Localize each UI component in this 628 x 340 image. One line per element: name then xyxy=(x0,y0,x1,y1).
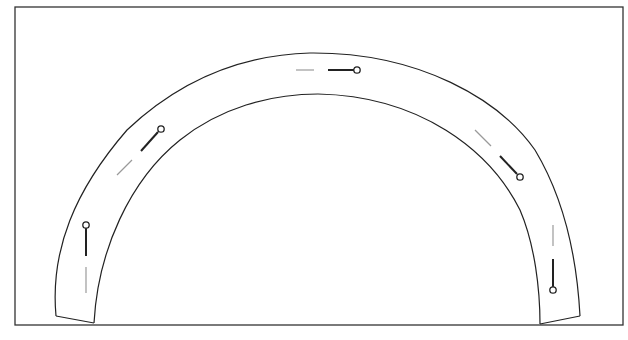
pin-shaft xyxy=(141,132,158,151)
pins-group xyxy=(83,67,556,293)
pin-left-lower xyxy=(83,222,89,293)
arch-left-foot xyxy=(56,316,94,323)
pin-head-icon xyxy=(517,174,523,180)
pin-right-upper xyxy=(475,130,523,180)
arch-right-foot xyxy=(540,316,580,324)
pin-head-icon xyxy=(550,287,556,293)
pin-head-icon xyxy=(158,126,164,132)
arch-diagram xyxy=(0,0,628,340)
pin-head-icon xyxy=(83,222,89,228)
diagram-svg xyxy=(0,0,628,340)
pin-guide-dash xyxy=(117,160,132,175)
pin-top xyxy=(296,67,360,73)
arch-outer-edge xyxy=(55,53,580,316)
pin-right-lower xyxy=(550,225,556,293)
pin-head-icon xyxy=(354,67,360,73)
frame-border xyxy=(15,7,623,325)
pin-shaft xyxy=(500,156,517,174)
pin-guide-dash xyxy=(475,130,491,146)
